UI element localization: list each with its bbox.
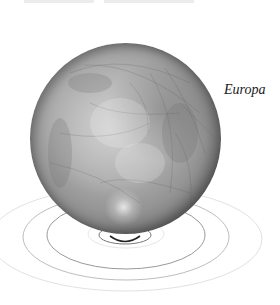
europa-label: Europa [224, 82, 265, 98]
europa-globe [30, 43, 221, 234]
surface-texture [30, 43, 221, 234]
